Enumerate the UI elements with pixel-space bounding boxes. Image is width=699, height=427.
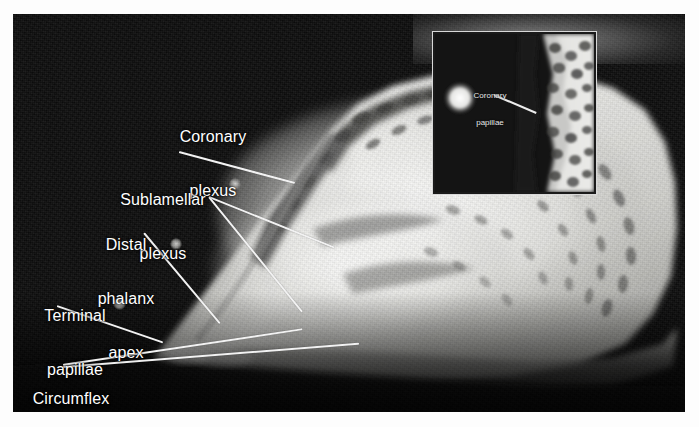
radiograph-plate: Coronary plexus Sublamellar plexus Dista… — [13, 14, 685, 412]
inset-panel: Coronary papillae — [433, 32, 596, 194]
label-coronary-plexus-line1: Coronary — [153, 128, 273, 146]
inset-label-coronary-papillae: Coronary papillae — [455, 73, 525, 145]
inset-label-line1: Coronary — [455, 91, 525, 100]
inset-label-line2: papillae — [455, 118, 525, 127]
label-distal-phalanx-apex-line1: Distal — [71, 236, 181, 254]
label-circumflex-vein: Circumflex vein — [13, 354, 133, 412]
label-terminal-papillae-line1: Terminal — [15, 307, 135, 325]
label-circumflex-vein-line1: Circumflex — [13, 390, 133, 408]
figure-root: Coronary plexus Sublamellar plexus Dista… — [0, 0, 699, 427]
